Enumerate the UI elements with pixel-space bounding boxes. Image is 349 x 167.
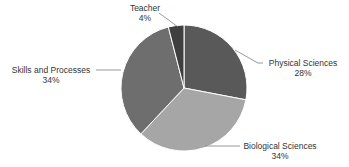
label-biological-name: Biological Sciences bbox=[238, 141, 322, 151]
label-physical-pct: 28% bbox=[262, 68, 344, 78]
pie-slice-physical-sciences bbox=[184, 25, 247, 100]
label-physical: Physical Sciences 28% bbox=[262, 58, 344, 78]
label-teacher-pct: 4% bbox=[124, 13, 166, 23]
label-teacher: Teacher 4% bbox=[124, 3, 166, 23]
label-skills: Skills and Processes 34% bbox=[5, 65, 97, 85]
label-skills-pct: 34% bbox=[5, 75, 97, 85]
label-biological: Biological Sciences 34% bbox=[238, 141, 322, 161]
pie-slices bbox=[121, 25, 247, 151]
label-teacher-name: Teacher bbox=[124, 3, 166, 13]
label-skills-name: Skills and Processes bbox=[5, 65, 97, 75]
label-biological-pct: 34% bbox=[238, 151, 322, 161]
label-physical-name: Physical Sciences bbox=[262, 58, 344, 68]
